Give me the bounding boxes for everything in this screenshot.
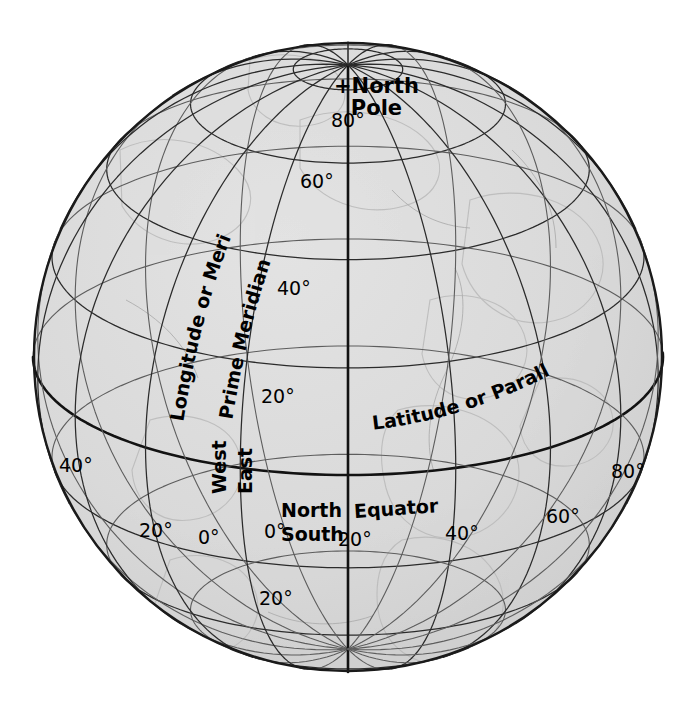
longitude-label-0: 0° [198,527,220,548]
east-label: East [235,448,256,494]
west-label: West [209,440,230,494]
globe-diagram: Latitude or Parallel Longitude or Meridi… [0,0,695,720]
longitude-label-20w: 20° [139,520,173,541]
longitude-label-80e: 80° [611,461,645,482]
latitude-label-40n: 40° [277,278,311,299]
south-hemisphere-label: South [281,524,344,545]
longitude-label-40w: 40° [59,455,93,476]
north-pole-line-1: +North [334,75,419,97]
latitude-label-80n: 80° [331,110,365,131]
latitude-label-20n: 20° [261,386,295,407]
longitude-label-60e: 60° [546,506,580,527]
north-hemisphere-label: North [281,500,342,521]
latitude-label-60n: 60° [300,171,334,192]
longitude-label-40e: 40° [445,523,479,544]
latitude-label-20s: 20° [259,588,293,609]
